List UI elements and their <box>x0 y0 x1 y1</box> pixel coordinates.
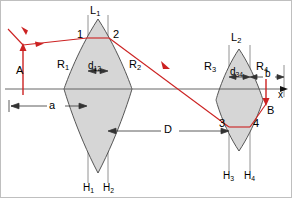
label-object-point-a: A <box>16 65 23 76</box>
label-point-3: 3 <box>219 118 225 129</box>
dim-b-arrowhead-right <box>277 75 284 80</box>
label-object-distance-a: a <box>49 100 55 111</box>
optics-diagram-figure: L1 L2 R1 R2 R3 R4 H1 H2 H3 H4 1 2 3 4 d1… <box>0 0 292 198</box>
lens-1-glass <box>64 19 132 173</box>
dim-a-arrowhead-left <box>11 103 19 109</box>
image-arrow-b <box>263 79 270 106</box>
ray-incoming-segment <box>8 29 23 45</box>
label-principal-h4: H4 <box>244 171 255 181</box>
label-thickness-d12: d12 <box>88 61 101 71</box>
label-surface-r3: R3 <box>204 61 216 72</box>
label-surface-r2: R2 <box>129 59 141 70</box>
label-lens-separation-D: D <box>164 124 172 135</box>
label-lens1-vertex: L1 <box>90 5 100 16</box>
label-image-distance-b: b <box>265 69 271 79</box>
label-principal-h2: H2 <box>103 183 114 193</box>
label-principal-h1: H1 <box>83 183 94 193</box>
label-lens2-vertex: L2 <box>231 32 241 43</box>
ray-arrowhead-origin <box>21 27 28 36</box>
label-surface-r1: R1 <box>57 59 69 70</box>
label-image-point-b: B <box>267 105 274 116</box>
ray-arrowhead-between-lenses <box>161 61 170 69</box>
label-point-4: 4 <box>253 118 259 129</box>
label-thickness-d34: d34 <box>230 67 243 77</box>
label-point-1: 1 <box>77 29 83 40</box>
diagram-canvas <box>1 1 292 198</box>
label-optical-axis-x: x <box>278 90 283 100</box>
label-principal-h3: H3 <box>223 171 234 181</box>
label-point-2: 2 <box>113 29 119 40</box>
lens-1-body <box>64 19 132 173</box>
